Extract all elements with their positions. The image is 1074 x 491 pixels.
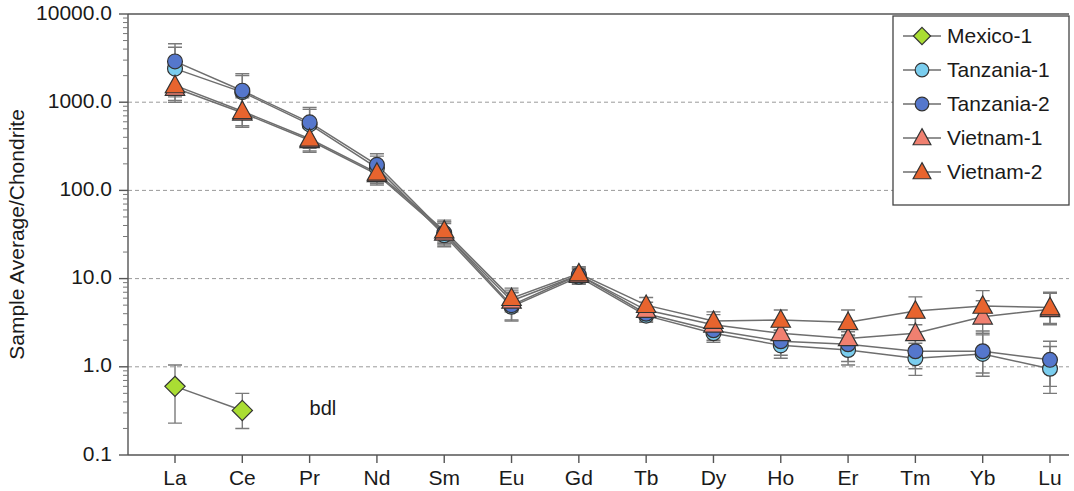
data-point-marker [168,54,183,69]
y-axis-ticks [119,14,128,455]
x-tick-label: Gd [565,466,593,489]
annotation-bdl: bdl [310,397,337,419]
x-tick-label: Eu [499,466,525,489]
chart-svg: 10000.01000.0100.010.01.00.1 LaCePrNdSmE… [0,0,1074,491]
legend-label: Tanzania-1 [947,58,1050,81]
x-tick-label: La [163,466,187,489]
x-tick-label: Dy [701,466,727,489]
data-point-marker [1043,352,1058,367]
data-point-marker [915,63,929,77]
x-tick-label: Nd [363,466,390,489]
y-tick-label: 100.0 [59,177,112,200]
data-point-marker [232,400,252,420]
y-axis-title: Sample Average/Chondrite [5,109,28,360]
x-axis-ticks [175,455,1050,463]
data-point-marker [771,310,790,328]
rare-earth-element-chart: 10000.01000.0100.010.01.00.1 LaCePrNdSmE… [0,0,1074,491]
legend: Mexico-1Tanzania-1Tanzania-2Vietnam-1Vie… [893,16,1069,205]
x-axis-tick-labels: LaCePrNdSmEuGdTbDyHoErTmYbLu [163,466,1061,489]
x-tick-label: Tb [634,466,659,489]
x-tick-label: Lu [1038,466,1061,489]
annotations-layer: bdl [310,397,337,419]
x-tick-label: Yb [970,466,996,489]
legend-label: Tanzania-2 [947,92,1050,115]
data-point-marker [975,344,990,359]
legend-item-mexico-1[interactable]: Mexico-1 [903,24,1032,47]
data-point-marker [915,97,929,111]
legend-label: Vietnam-2 [947,160,1042,183]
y-tick-label: 1000.0 [48,89,112,112]
y-tick-label: 1.0 [83,353,112,376]
x-tick-label: Pr [299,466,320,489]
x-tick-label: Er [838,466,859,489]
data-point-marker [906,301,925,319]
y-tick-label: 0.1 [83,442,112,465]
y-tick-label: 10000.0 [36,1,112,24]
data-point-marker [838,328,857,346]
legend-label: Vietnam-1 [947,126,1042,149]
data-point-marker [1040,297,1059,315]
data-point-marker [165,376,185,396]
y-tick-label: 10.0 [71,265,112,288]
x-tick-label: Sm [428,466,460,489]
data-point-marker [908,344,923,359]
legend-label: Mexico-1 [947,24,1032,47]
y-axis-title-text: Sample Average/Chondrite [5,109,28,360]
x-tick-label: Ce [229,466,256,489]
data-point-marker [165,75,184,93]
series-line-mexico-1 [175,386,242,410]
y-axis-tick-labels: 10000.01000.0100.010.01.00.1 [36,1,112,465]
data-point-marker [235,83,250,98]
x-tick-label: Tm [900,466,930,489]
data-point-marker [973,296,992,314]
x-tick-label: Ho [767,466,794,489]
